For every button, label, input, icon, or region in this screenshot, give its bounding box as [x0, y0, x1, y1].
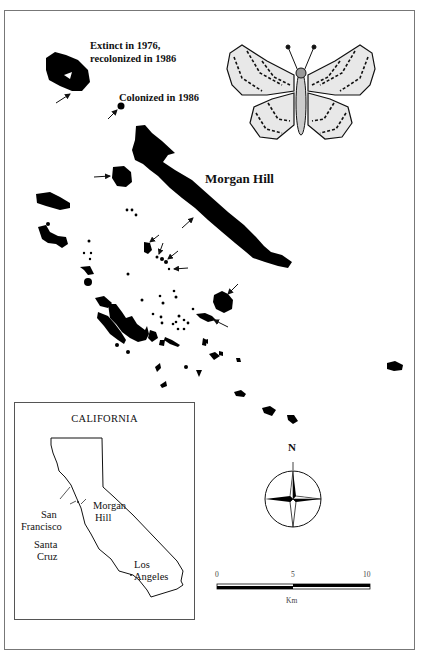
habitat-patch-east: [213, 291, 233, 313]
label-cruz: Cruz: [37, 551, 57, 563]
scale-tick-10: 10: [363, 570, 371, 579]
annotation-colonized: Colonized in 1986: [119, 92, 199, 104]
inset-map-california: CALIFORNIA San Francisco Santa Cruz Morg…: [14, 402, 195, 620]
label-angeles: Angeles: [134, 571, 168, 583]
label-los: Los: [134, 559, 150, 571]
scale-bar: [217, 584, 370, 589]
location-morgan-hill: Morgan Hill: [205, 172, 274, 187]
habitat-patch-recolonized: [46, 52, 90, 91]
label-francisco: Francisco: [21, 521, 62, 533]
arrow-colonized: [108, 110, 117, 119]
arrow-recolonized: [56, 94, 70, 103]
label-morgan: Morgan: [93, 500, 126, 512]
label-hill: Hill: [95, 512, 111, 524]
compass-rose: [265, 462, 321, 527]
arrow-west-patch: [94, 176, 110, 177]
butterfly-illustration: [222, 33, 382, 148]
scale-tick-0: 0: [215, 570, 219, 579]
annotation-extinct: Extinct in 1976,: [90, 40, 160, 52]
label-san: San: [41, 509, 57, 521]
label-santa: Santa: [34, 539, 57, 551]
scale-unit: Km: [286, 596, 297, 605]
arrow-morgan-hill: [182, 218, 193, 228]
north-label: N: [288, 441, 296, 454]
annotation-recolonized: recolonized in 1986: [90, 53, 176, 65]
scale-tick-5: 5: [291, 570, 295, 579]
